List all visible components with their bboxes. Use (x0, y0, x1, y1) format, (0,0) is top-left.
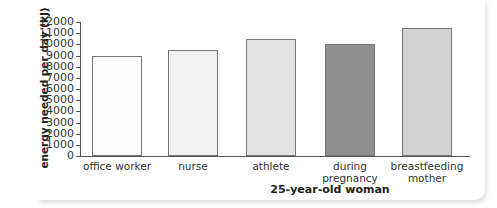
bar-office-worker (92, 56, 142, 157)
y-tick-label: 7000 (36, 72, 74, 83)
y-tick-label: 9000 (36, 50, 74, 61)
y-tick-label: 3000 (36, 117, 74, 128)
y-tick-label: 8000 (36, 61, 74, 72)
x-axis-line (80, 156, 470, 157)
y-axis-line (80, 22, 81, 156)
y-tick-label: 4000 (36, 105, 74, 116)
y-tick-label: 12000 (36, 16, 74, 27)
x-category-label: breastfeedingmother (382, 160, 472, 184)
bar-athlete (246, 39, 296, 156)
bar-breastfeeding-mother (402, 28, 452, 156)
y-tick-label: 5000 (36, 94, 74, 105)
y-tick-label: 2000 (36, 128, 74, 139)
x-category-label: athlete (226, 160, 316, 172)
x-category-label: nurse (148, 160, 238, 172)
y-tick-label: 1000 (36, 139, 74, 150)
bar-nurse (168, 50, 218, 156)
y-tick-label: 0 (36, 150, 74, 161)
x-axis-label: 25-year-old woman (230, 183, 430, 196)
y-tick-label: 11000 (36, 27, 74, 38)
x-category-line: nurse (148, 160, 238, 172)
x-category-line: breastfeeding (382, 160, 472, 172)
y-tick-label: 10000 (36, 38, 74, 49)
y-tick-label: 6000 (36, 83, 74, 94)
x-category-line: athlete (226, 160, 316, 172)
bar-during-pregnancy (325, 44, 375, 156)
